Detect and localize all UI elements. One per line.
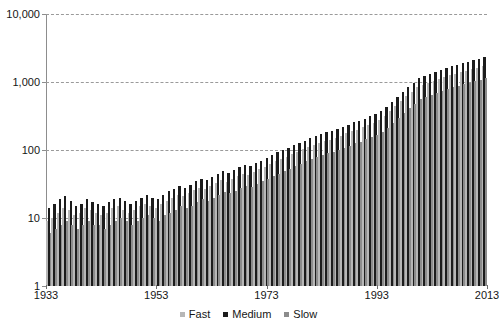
- x-axis-tick-label: 1973: [254, 289, 278, 301]
- x-axis-tick-mark: [487, 285, 488, 289]
- legend-item[interactable]: Slow: [284, 308, 317, 320]
- y-axis-tick-label: 100: [22, 144, 40, 156]
- legend-swatch-icon: [223, 312, 228, 317]
- bar: [485, 78, 487, 286]
- bar-series-group: [46, 14, 487, 286]
- y-axis-tick-label: 10,000: [6, 8, 40, 20]
- y-axis-tick-label: 10: [28, 212, 40, 224]
- legend-item-label: Fast: [189, 308, 210, 320]
- legend-swatch-icon: [180, 312, 185, 317]
- legend-item[interactable]: Medium: [223, 308, 271, 320]
- x-axis-tick-label: 2013: [475, 289, 499, 301]
- x-axis-tick-label: 1933: [34, 289, 58, 301]
- x-axis-tick-mark: [267, 285, 268, 289]
- plot-area: 1101001,00010,000: [46, 14, 487, 286]
- chart-legend: FastMediumSlow: [0, 308, 497, 320]
- x-axis-tick-mark: [46, 285, 47, 289]
- legend-item[interactable]: Fast: [180, 308, 210, 320]
- legend-item-label: Medium: [232, 308, 271, 320]
- x-axis-tick-label: 1993: [365, 289, 389, 301]
- x-axis-tick-label: 1953: [144, 289, 168, 301]
- legend-item-label: Slow: [293, 308, 317, 320]
- legend-swatch-icon: [284, 312, 289, 317]
- x-axis-tick-mark: [156, 285, 157, 289]
- x-axis-tick-mark: [377, 285, 378, 289]
- y-axis-tick-label: 1,000: [12, 76, 40, 88]
